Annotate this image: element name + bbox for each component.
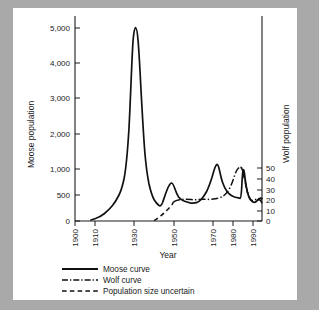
y-ticklabel-500: 500	[57, 191, 71, 200]
x-ticks: 1900 1910 1930 1950 1970 1980 1990	[71, 221, 258, 247]
y-ticklabel-5000: 5,000	[50, 24, 71, 33]
x-ticklabel-1950: 1950	[170, 228, 179, 246]
legend-label-uncertain: Population size uncertain	[103, 287, 195, 296]
y-ticklabel-0: 0	[66, 217, 71, 226]
population-line-chart: 5,000 4,000 3,000 2,000 1,000 500 0 50 4…	[13, 8, 297, 300]
moose-curve-path	[91, 28, 262, 220]
x-ticklabel-1990: 1990	[249, 228, 258, 246]
series-layer	[91, 28, 262, 221]
x-axis-title: Year	[159, 250, 176, 260]
x-ticklabel-1980: 1980	[229, 228, 238, 246]
y-ticklabel-2000: 2,000	[50, 130, 71, 139]
y2-ticklabel-30: 30	[266, 186, 275, 195]
y2-ticklabel-50: 50	[266, 164, 275, 173]
y-axis-title: Moose population	[26, 101, 36, 168]
y2-axis-title: Wolf population	[281, 104, 291, 163]
x-ticklabel-1930: 1930	[130, 228, 139, 246]
y-ticklabel-1000: 1,000	[50, 165, 71, 174]
x-ticklabel-1900: 1900	[71, 228, 80, 246]
y2-ticklabel-20: 20	[266, 196, 275, 205]
figure-frame: 5,000 4,000 3,000 2,000 1,000 500 0 50 4…	[0, 0, 319, 310]
y2-ticklabel-0: 0	[266, 217, 271, 226]
right-y-ticks: 50 40 30 20 10 0	[257, 164, 275, 226]
y-ticklabel-3000: 3,000	[50, 94, 71, 103]
y2-ticklabel-40: 40	[266, 175, 275, 184]
axes-group	[75, 16, 262, 221]
y-ticklabel-4000: 4,000	[50, 59, 71, 68]
legend-label-wolf: Wolf curve	[103, 276, 142, 285]
x-ticklabel-1970: 1970	[209, 228, 218, 246]
figure-panel: 5,000 4,000 3,000 2,000 1,000 500 0 50 4…	[13, 8, 297, 300]
legend: Moose curve Wolf curve Population size u…	[62, 265, 195, 296]
legend-label-moose: Moose curve	[103, 265, 150, 274]
y2-ticklabel-10: 10	[266, 207, 275, 216]
x-ticklabel-1910: 1910	[91, 228, 100, 246]
